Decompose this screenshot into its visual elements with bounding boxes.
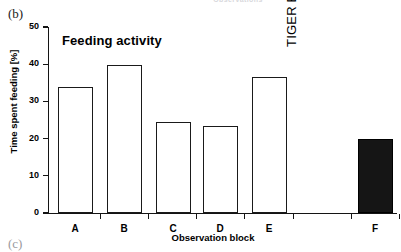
x-tick [148,214,149,219]
x-tick [100,214,101,219]
y-tick-label: 20 [15,134,39,143]
tiger-encounter-annotation: TIGER ENCOUNTER [284,0,299,47]
x-tick [351,214,352,219]
y-axis-label: Time spent feeding [%] [8,27,19,177]
y-tick [43,212,48,213]
y-tick [43,64,48,65]
panel-label-c: (c) [8,236,22,252]
x-tick [399,214,400,219]
bar-f [358,139,393,213]
panel-label-b: (b) [8,6,23,22]
y-tick-label: 40 [15,59,39,68]
y-tick-label: 10 [15,171,39,180]
y-tick-label: 50 [15,22,39,31]
y-tick [43,175,48,176]
y-tick [43,138,48,139]
cutoff-header-text: Observations [178,0,298,5]
y-tick-label: 30 [15,96,39,105]
y-tick [43,101,48,102]
plot-area: 01020304050 ABCDEF [48,27,397,213]
bar-c [156,122,191,213]
x-tick [244,214,245,219]
y-tick-label: 0 [15,208,39,217]
bar-b [107,65,142,213]
x-tick-label-a: A [60,223,90,234]
y-axis-line [48,27,49,213]
chart-title: Feeding activity [62,33,162,48]
bar-e [252,77,287,213]
x-tick [293,214,294,219]
x-axis-label: Observation block [118,232,308,243]
bar-d [203,126,238,213]
x-tick-label-f: F [360,223,390,234]
bar-a [58,87,93,213]
y-tick [43,26,48,27]
x-tick [196,214,197,219]
